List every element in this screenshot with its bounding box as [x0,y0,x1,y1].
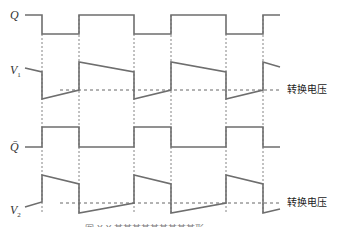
v2-label: V2 [10,203,21,219]
v1-threshold-label: 转换电压 [287,83,327,95]
v1-label: V1 [10,63,21,79]
v1-waveform [25,62,280,99]
v2-waveform [25,175,280,213]
qbar-label: Q̄ [10,140,19,154]
qbar-waveform [25,127,280,147]
q-label: Q [10,8,19,22]
figure-caption: 图 X-X 某某某某某某某某某形 [85,223,204,227]
q-waveform [25,15,280,34]
v2-threshold-label: 转换电压 [287,196,327,208]
timing-diagram: Q V1 Q̄ V2 转换电压 转换电压 图 X-X 某某某某某某某某某形 [0,0,337,227]
